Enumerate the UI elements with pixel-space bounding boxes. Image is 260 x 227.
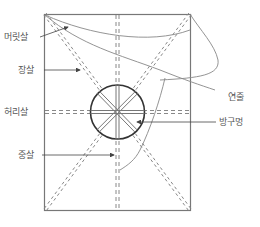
svg-text:방구멍: 방구멍 — [219, 117, 243, 127]
label-waist-stick: 허리살 — [4, 107, 28, 117]
svg-text:머릿살: 머릿살 — [4, 31, 28, 42]
svg-text:중살: 중살 — [18, 150, 34, 160]
label-kite-string: 연줄 — [228, 92, 244, 102]
center-hole — [91, 85, 145, 139]
svg-text:허리살: 허리살 — [4, 107, 28, 117]
svg-text:장살: 장살 — [18, 65, 34, 75]
label-center-stick: 중살 — [18, 150, 114, 160]
label-long-stick: 장살 — [18, 65, 80, 75]
kite-diagram: 머릿살 장살 허리살 중살 연줄 방구멍 — [0, 0, 260, 227]
svg-text:연줄: 연줄 — [228, 92, 244, 102]
